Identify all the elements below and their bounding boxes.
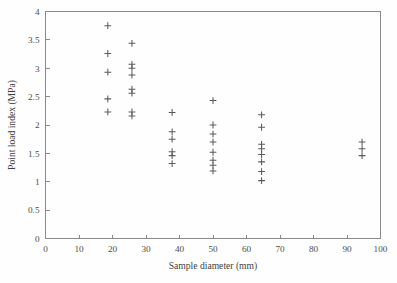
- x-tick-label: 40: [175, 244, 185, 254]
- data-point-marker: [210, 168, 217, 175]
- y-tick-label: 2.5: [28, 92, 40, 102]
- y-tick-label: 1.5: [28, 149, 40, 159]
- data-point-marker: [258, 168, 265, 175]
- y-tick-label: 0.5: [28, 205, 40, 215]
- data-point-marker: [169, 152, 176, 159]
- x-tick-label: 90: [342, 244, 352, 254]
- x-axis-ticks: 0102030405060708090100: [43, 235, 388, 254]
- data-point-marker: [258, 111, 265, 118]
- y-tick-label: 3: [35, 64, 40, 74]
- data-point-marker: [210, 139, 217, 146]
- data-point-marker: [104, 22, 111, 29]
- y-tick-label: 0: [35, 234, 40, 244]
- data-point-marker: [359, 139, 366, 146]
- x-tick-label: 20: [108, 244, 118, 254]
- x-tick-label: 70: [275, 244, 285, 254]
- x-tick-label: 0: [43, 244, 48, 254]
- data-points-group: [104, 22, 365, 184]
- data-point-marker: [129, 90, 136, 97]
- y-tick-label: 3.5: [28, 35, 40, 45]
- data-point-marker: [129, 40, 136, 47]
- data-point-marker: [210, 97, 217, 104]
- data-point-marker: [104, 95, 111, 102]
- scatter-plot-figure: 00.511.522.533.540102030405060708090100S…: [0, 0, 397, 283]
- data-point-marker: [104, 69, 111, 76]
- data-point-marker: [169, 128, 176, 135]
- data-point-marker: [210, 131, 217, 138]
- data-point-marker: [258, 151, 265, 158]
- data-point-marker: [169, 160, 176, 167]
- y-tick-label: 2: [35, 120, 40, 130]
- x-tick-label: 60: [242, 244, 252, 254]
- data-point-marker: [169, 136, 176, 143]
- chart-canvas: 00.511.522.533.540102030405060708090100S…: [0, 0, 397, 283]
- x-tick-label: 10: [74, 244, 84, 254]
- data-point-marker: [210, 149, 217, 156]
- y-tick-label: 4: [35, 7, 40, 17]
- data-point-marker: [359, 145, 366, 152]
- x-tick-label: 30: [141, 244, 151, 254]
- data-point-marker: [129, 113, 136, 120]
- data-point-marker: [104, 50, 111, 57]
- data-point-marker: [169, 109, 176, 116]
- y-axis-title: Point load index (MPa): [6, 80, 18, 170]
- y-tick-label: 1: [35, 177, 40, 187]
- data-point-marker: [210, 122, 217, 129]
- data-point-marker: [129, 72, 136, 79]
- data-point-marker: [129, 65, 136, 72]
- y-axis-ticks: 00.511.522.533.54: [28, 7, 49, 244]
- x-tick-label: 100: [374, 244, 388, 254]
- data-point-marker: [258, 124, 265, 131]
- x-axis-title: Sample diameter (mm): [169, 260, 257, 272]
- x-tick-label: 80: [309, 244, 319, 254]
- data-point-marker: [258, 177, 265, 184]
- data-point-marker: [359, 152, 366, 159]
- x-tick-label: 50: [208, 244, 218, 254]
- data-point-marker: [258, 158, 265, 165]
- data-point-marker: [104, 109, 111, 116]
